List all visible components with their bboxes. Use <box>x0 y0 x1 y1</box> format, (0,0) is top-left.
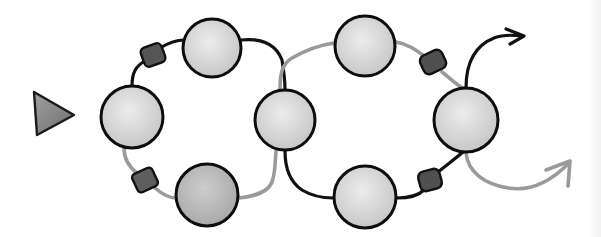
exit-arrow-down-line <box>466 153 568 189</box>
node-right <box>434 88 498 152</box>
path-center-to-bottom-right <box>285 151 333 198</box>
node-center <box>255 90 315 150</box>
diagram-canvas <box>0 0 601 237</box>
node-left <box>101 86 163 148</box>
node-bottom-right <box>334 166 396 228</box>
start-triangle-icon <box>34 92 74 135</box>
gate-bottom-right-icon <box>417 167 443 192</box>
page-edge-shadow <box>589 0 601 237</box>
path-center-to-top-right <box>280 43 334 89</box>
node-bottom-left <box>176 164 238 226</box>
node-top-left <box>183 19 241 77</box>
loop-diagram <box>0 0 601 237</box>
path-top-left-to-center <box>241 40 285 89</box>
path-bottom-left-to-center <box>239 151 276 198</box>
node-top-right <box>335 16 395 76</box>
